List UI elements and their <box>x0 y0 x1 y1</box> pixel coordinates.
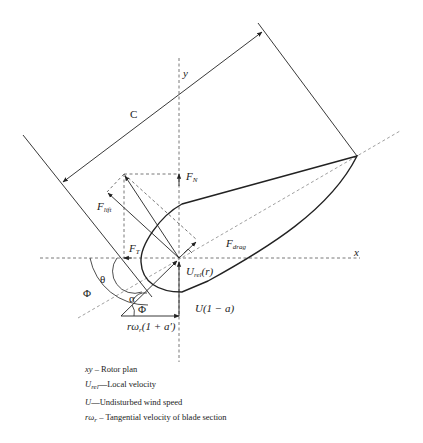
theta-label: θ <box>100 274 105 285</box>
tangential-force-label: FT <box>129 243 140 256</box>
airfoil-blade <box>141 156 357 292</box>
alpha-label: α <box>129 293 135 304</box>
force-vectors <box>108 174 196 258</box>
force-construction-lines <box>107 174 197 258</box>
normal-force-label: FN <box>186 171 197 184</box>
x-axis-label: x <box>354 247 359 258</box>
lift-force-label: Flift <box>97 201 112 214</box>
legend-item-u: U—Undisturbed wind speed <box>85 395 227 410</box>
axial-velocity-label: U(1 − a) <box>195 303 234 314</box>
y-axis-label: y <box>183 68 188 79</box>
relative-velocity-label: Urel(r) <box>186 266 213 279</box>
phi-inner-label: Φ <box>138 304 146 315</box>
chord-dimension <box>23 23 357 297</box>
legend-item-urel: Urel—Local velocity <box>85 377 227 395</box>
chord-line <box>78 131 400 318</box>
drag-force-label: Fdrag <box>226 238 246 251</box>
chord-label: C <box>130 109 137 120</box>
rotational-velocity-label: rωr(1 + a′) <box>127 321 175 334</box>
legend-item-romega: rωr – Tangential velocity of blade secti… <box>85 410 227 428</box>
phi-outer-label: Φ <box>83 288 91 299</box>
legend: xy – Rotor plan Urel—Local velocity U—Un… <box>85 362 227 428</box>
legend-item-xy: xy – Rotor plan <box>85 362 227 377</box>
